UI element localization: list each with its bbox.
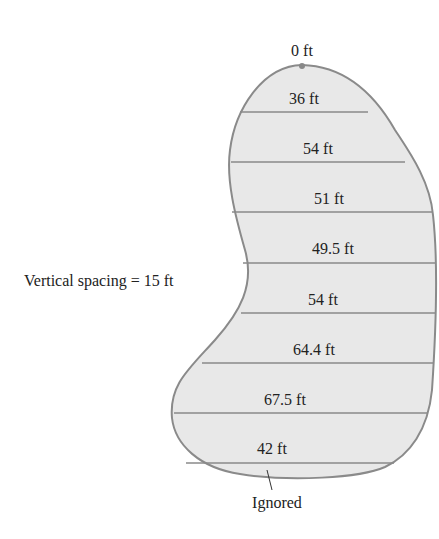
width-label-8: 42 ft — [257, 440, 287, 457]
top-point — [299, 63, 305, 69]
width-label-2: 54 ft — [303, 140, 333, 157]
width-label-6: 64.4 ft — [293, 341, 335, 358]
width-label-3: 51 ft — [314, 190, 344, 207]
width-label-5: 54 ft — [308, 291, 338, 308]
pool-diagram: 0 ft 36 ft 54 ft 51 ft 49.5 ft 54 ft 64.… — [0, 0, 439, 539]
ignored-label: Ignored — [252, 494, 302, 512]
width-label-4: 49.5 ft — [312, 240, 354, 257]
pool-outline — [172, 65, 436, 478]
top-label: 0 ft — [291, 42, 313, 59]
spacing-label: Vertical spacing = 15 ft — [24, 272, 174, 290]
width-label-1: 36 ft — [289, 90, 319, 107]
width-label-7: 67.5 ft — [264, 391, 306, 408]
